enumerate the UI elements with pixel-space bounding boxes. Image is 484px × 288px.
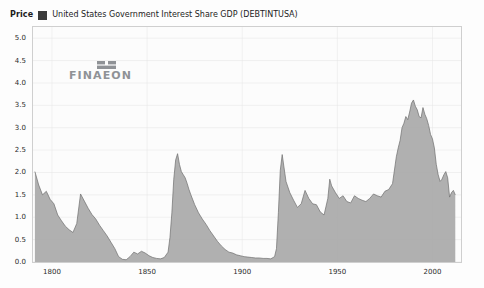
y-tick-label: 2.0 (4, 168, 26, 176)
y-tick-label: 1.5 (4, 191, 26, 199)
y-tick-label: 0.5 (4, 236, 26, 244)
y-tick-label: 4.0 (4, 79, 26, 87)
area-chart-svg (33, 27, 461, 262)
chart-legend: Price United States Government Interest … (0, 8, 484, 22)
plot-area: FINAEON Source: Global Financial Data (32, 26, 462, 263)
x-tick-label: 1900 (222, 268, 262, 276)
y-tick-label: 0.0 (4, 258, 26, 266)
legend-color-swatch (38, 11, 47, 20)
y-tick-label: 3.0 (4, 124, 26, 132)
x-tick-label: 1950 (317, 268, 357, 276)
x-tick-label: 1850 (127, 268, 167, 276)
chart-screenshot: Price United States Government Interest … (0, 0, 484, 288)
legend-series-label: United States Government Interest Share … (52, 10, 298, 20)
x-tick-label: 1800 (32, 268, 72, 276)
y-tick-label: 3.5 (4, 101, 26, 109)
y-tick-label: 5.0 (4, 34, 26, 42)
y-tick-label: 2.5 (4, 146, 26, 154)
price-axis-title: Price (10, 10, 33, 20)
y-tick-label: 4.5 (4, 57, 26, 65)
x-tick-label: 2000 (412, 268, 452, 276)
y-tick-label: 1.0 (4, 213, 26, 221)
series-area-fill (35, 100, 455, 262)
